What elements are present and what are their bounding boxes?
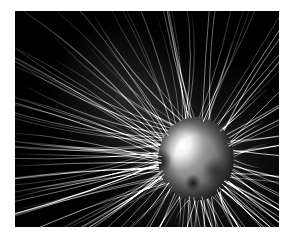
field-line-image	[15, 11, 279, 227]
visualization-root: Magnetospheric field line visualization …	[0, 0, 294, 238]
field-line-canvas	[15, 11, 279, 227]
